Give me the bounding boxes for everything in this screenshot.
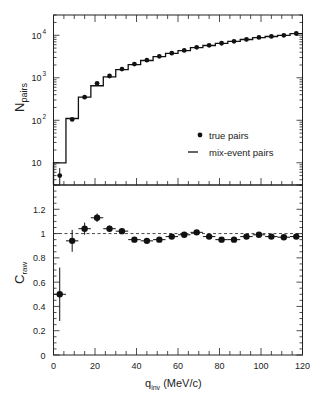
craw-point bbox=[281, 234, 287, 240]
craw-point bbox=[169, 233, 175, 239]
y-tick-label: 0.6 bbox=[33, 278, 46, 288]
craw-point bbox=[57, 291, 63, 297]
craw-point bbox=[206, 233, 212, 239]
y-tick-label: 103 bbox=[32, 70, 47, 83]
craw-point bbox=[144, 238, 150, 244]
true-pair-point bbox=[144, 58, 149, 63]
true-pair-point bbox=[107, 74, 112, 79]
true-pair-point bbox=[120, 67, 125, 72]
true-pair-point bbox=[207, 43, 212, 48]
true-pair-point bbox=[95, 81, 100, 86]
y-tick-label: 104 bbox=[32, 28, 47, 41]
y-tick-label: 0.2 bbox=[33, 326, 46, 336]
true-pair-point bbox=[194, 45, 199, 50]
craw-point bbox=[81, 226, 87, 232]
true-pair-point bbox=[232, 39, 237, 44]
y-tick-label: 1.2 bbox=[33, 205, 46, 215]
true-pair-point bbox=[57, 173, 62, 178]
upper-y-axis-label: Npairs bbox=[12, 83, 29, 112]
x-tick-label: 0 bbox=[51, 361, 56, 371]
true-pair-point bbox=[70, 117, 75, 122]
true-pair-point bbox=[157, 54, 162, 59]
legend-label-mix-event-pairs: mix-event pairs bbox=[209, 147, 274, 158]
lower-plot-frame bbox=[54, 185, 303, 355]
true-pair-point bbox=[182, 48, 187, 53]
upper-plot-frame bbox=[54, 15, 303, 185]
lower-panel-craw: 00.20.40.60.811.2020406080100120 bbox=[33, 185, 310, 371]
craw-point bbox=[106, 226, 112, 232]
y-tick-label: 0.8 bbox=[33, 253, 46, 263]
craw-point bbox=[69, 238, 75, 244]
figure: 10102103104true pairsmix-event pairs 00.… bbox=[0, 0, 318, 400]
x-tick-label: 80 bbox=[214, 361, 224, 371]
legend-dot-icon bbox=[198, 133, 203, 138]
true-pair-point bbox=[169, 51, 174, 56]
true-pair-point bbox=[294, 31, 299, 36]
lower-y-axis-label: Craw bbox=[12, 261, 29, 284]
upper-panel-npairs: 10102103104true pairsmix-event pairs bbox=[32, 15, 303, 185]
x-axis-label: qinv (MeV/c) bbox=[145, 377, 202, 391]
craw-point bbox=[94, 215, 100, 221]
x-tick-label: 120 bbox=[295, 361, 310, 371]
y-tick-label: 0 bbox=[40, 351, 45, 361]
true-pair-point bbox=[219, 41, 224, 46]
true-pair-point bbox=[281, 33, 286, 38]
craw-point bbox=[231, 236, 237, 242]
true-pair-point bbox=[132, 62, 137, 67]
true-pair-point bbox=[269, 34, 274, 39]
x-tick-label: 20 bbox=[90, 361, 100, 371]
y-tick-label: 1 bbox=[40, 229, 45, 239]
x-tick-label: 40 bbox=[131, 361, 141, 371]
craw-point bbox=[156, 236, 162, 242]
craw-point bbox=[243, 233, 249, 239]
x-tick-label: 100 bbox=[253, 361, 268, 371]
true-pair-point bbox=[82, 95, 87, 100]
craw-point bbox=[256, 232, 262, 238]
true-pair-point bbox=[244, 37, 249, 42]
craw-point bbox=[131, 236, 137, 242]
legend-label-true-pairs: true pairs bbox=[209, 130, 249, 141]
craw-point bbox=[268, 233, 274, 239]
craw-point bbox=[181, 232, 187, 238]
craw-point bbox=[218, 236, 224, 242]
mix-event-histogram bbox=[54, 34, 303, 185]
y-tick-label: 102 bbox=[32, 113, 47, 126]
y-tick-label: 0.4 bbox=[33, 302, 46, 312]
craw-point bbox=[293, 233, 299, 239]
x-tick-label: 60 bbox=[173, 361, 183, 371]
true-pair-point bbox=[257, 35, 262, 40]
craw-point bbox=[193, 229, 199, 235]
craw-point bbox=[119, 228, 125, 234]
y-tick-label: 10 bbox=[32, 158, 42, 168]
